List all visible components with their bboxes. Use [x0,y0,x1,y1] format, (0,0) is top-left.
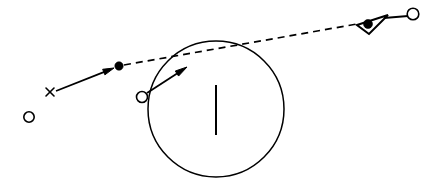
filled-dot-left [115,62,123,70]
open-circle-lower-left [24,112,34,122]
figure-canvas [0,0,439,189]
open-circle-origin [137,92,148,103]
figure-background [0,0,439,189]
filled-dot-in-triangle [364,20,373,29]
open-circle-top-right [407,8,419,20]
diagram-svg [0,0,439,189]
